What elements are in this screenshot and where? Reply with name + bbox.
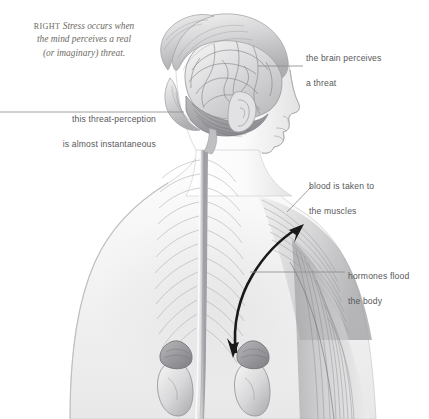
label-threat-perception: this threat-perception is almost instant… [44,101,156,151]
stress-response-figure: RIGHT Stress occurs when the mind percei… [0,0,429,419]
caption-keyword: RIGHT [34,22,61,31]
caption-line-3: (or imaginary) threat. [43,48,125,58]
label-blood-muscles: blood is taken to the muscles [309,168,374,218]
label-blood-line-2: the muscles [309,206,357,216]
label-hormones-line-2: the body [348,296,382,306]
label-brain-line-1: the brain perceives [306,53,381,63]
figure-caption: RIGHT Stress occurs when the mind percei… [14,20,154,60]
label-hormones-body: hormones flood the body [348,258,409,308]
label-blood-line-1: blood is taken to [309,181,374,191]
caption-line-2: the mind perceives a real [37,34,131,44]
caption-line-1: Stress occurs when [63,21,135,31]
label-perception-line-2: is almost instantaneous [63,139,156,149]
label-brain-line-2: a threat [306,78,336,88]
label-perception-line-1: this threat-perception [72,114,156,124]
label-hormones-line-1: hormones flood [348,271,409,281]
label-brain-perceives: the brain perceives a threat [306,40,381,90]
